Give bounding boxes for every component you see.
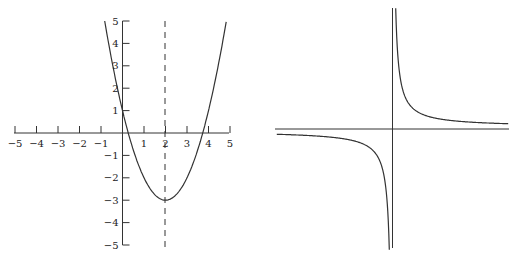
y-tick-label: 1 xyxy=(112,105,118,116)
y-tick-label: −5 xyxy=(104,240,119,251)
x-tick-label: −4 xyxy=(29,138,44,149)
x-tick-label: 4 xyxy=(205,138,211,149)
y-tick-label: −4 xyxy=(104,217,119,228)
x-tick-label: −5 xyxy=(8,138,23,149)
x-tick-label: 2 xyxy=(162,138,168,149)
y-tick-label: 3 xyxy=(112,60,118,71)
y-tick-label: −2 xyxy=(104,172,119,183)
figure: −5−4−3−2−112345 54321−1−2−3−4−5 xyxy=(0,0,515,259)
x-tick-label: 1 xyxy=(141,138,147,149)
x-tick-label: 5 xyxy=(227,138,233,149)
y-tick-label: 5 xyxy=(112,16,118,27)
hyperbola-branch-negative xyxy=(277,134,390,250)
y-tick-label: −1 xyxy=(104,150,119,161)
x-tick-label: 3 xyxy=(184,138,190,149)
y-tick-label: 2 xyxy=(112,83,118,94)
y-tick-label: 4 xyxy=(112,38,118,49)
parabola-chart xyxy=(14,21,230,247)
x-tick-label: −1 xyxy=(94,138,109,149)
x-tick-label: −2 xyxy=(72,138,87,149)
x-tick-label: −3 xyxy=(51,138,66,149)
y-tick-label: −3 xyxy=(104,195,119,206)
hyperbola-branch-positive xyxy=(396,8,509,123)
hyperbola-chart xyxy=(275,8,509,250)
